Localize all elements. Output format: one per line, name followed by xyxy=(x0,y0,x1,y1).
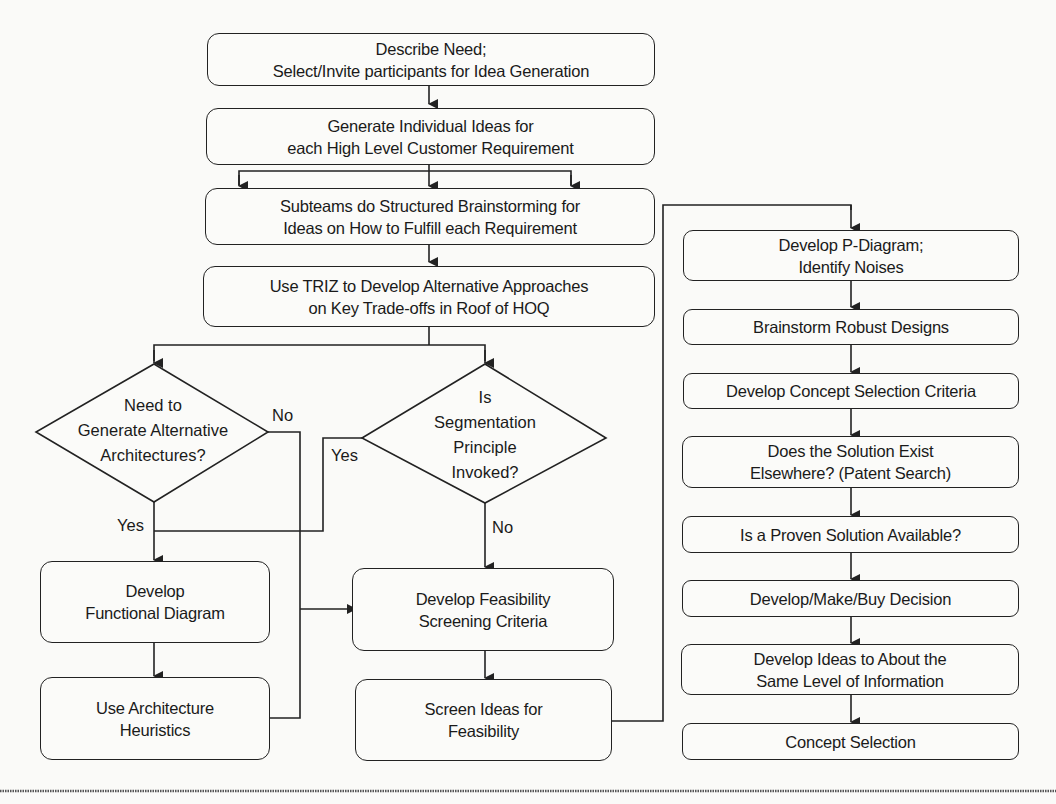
box-concept-criteria: Develop Concept Selection Criteria xyxy=(683,373,1019,409)
box-concept-selection-text: Concept Selection xyxy=(785,731,916,753)
box-generate-ideas: Generate Individual Ideas for each High … xyxy=(206,108,655,165)
label-alt-yes: Yes xyxy=(117,516,144,535)
box-subteams-text: Subteams do Structured Brainstorming for… xyxy=(280,195,580,239)
box-screen-ideas: Screen Ideas for Feasibility xyxy=(355,679,612,761)
label-seg-yes: Yes xyxy=(331,446,358,465)
box-describe-need-text: Describe Need; Select/Invite participant… xyxy=(273,38,589,82)
box-architecture-heuristics: Use Architecture Heuristics xyxy=(40,677,270,760)
box-generate-ideas-text: Generate Individual Ideas for each High … xyxy=(287,115,573,159)
box-architecture-heuristics-text: Use Architecture Heuristics xyxy=(96,697,214,741)
box-robust-designs: Brainstorm Robust Designs xyxy=(683,309,1019,345)
box-concept-criteria-text: Develop Concept Selection Criteria xyxy=(726,380,976,402)
box-concept-selection: Concept Selection xyxy=(682,723,1019,760)
box-same-level: Develop Ideas to About the Same Level of… xyxy=(681,644,1019,695)
box-feasibility-criteria-text: Develop Feasibility Screening Criteria xyxy=(416,588,551,632)
decision-segmentation-text: Is Segmentation Principle Invoked? xyxy=(400,385,570,485)
box-p-diagram: Develop P-Diagram; Identify Noises xyxy=(683,230,1019,281)
box-solution-exist: Does the Solution Exist Elsewhere? (Pate… xyxy=(682,436,1019,488)
box-functional-diagram-text: Develop Functional Diagram xyxy=(85,580,224,624)
box-proven-solution-text: Is a Proven Solution Available? xyxy=(740,524,961,546)
box-same-level-text: Develop Ideas to About the Same Level of… xyxy=(754,648,947,692)
box-subteams-brainstorming: Subteams do Structured Brainstorming for… xyxy=(205,188,655,245)
box-make-buy: Develop/Make/Buy Decision xyxy=(682,580,1019,617)
box-describe-need: Describe Need; Select/Invite participant… xyxy=(207,33,655,86)
box-functional-diagram: Develop Functional Diagram xyxy=(40,561,270,643)
decision-alt-architectures-text: Need to Generate Alternative Architectur… xyxy=(40,393,266,468)
label-alt-no: No xyxy=(272,406,293,425)
box-p-diagram-text: Develop P-Diagram; Identify Noises xyxy=(779,234,924,278)
box-screen-ideas-text: Screen Ideas for Feasibility xyxy=(425,698,543,742)
flowchart-canvas: Describe Need; Select/Invite participant… xyxy=(0,0,1056,804)
label-seg-no: No xyxy=(492,518,513,537)
box-make-buy-text: Develop/Make/Buy Decision xyxy=(750,588,951,610)
box-robust-designs-text: Brainstorm Robust Designs xyxy=(753,316,949,338)
box-use-triz-text: Use TRIZ to Develop Alternative Approach… xyxy=(270,275,589,319)
box-feasibility-criteria: Develop Feasibility Screening Criteria xyxy=(352,568,614,651)
box-solution-exist-text: Does the Solution Exist Elsewhere? (Pate… xyxy=(750,440,951,484)
box-proven-solution: Is a Proven Solution Available? xyxy=(682,516,1019,553)
box-use-triz: Use TRIZ to Develop Alternative Approach… xyxy=(203,266,655,327)
